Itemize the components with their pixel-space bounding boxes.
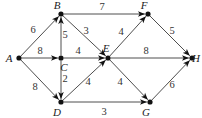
edge-weight-f-h: 5: [169, 25, 174, 36]
node-a: [16, 55, 21, 60]
edge-e-g: [110, 60, 148, 100]
node-label-d: D: [52, 106, 61, 118]
edge-weight-a-c: 8: [37, 45, 42, 56]
edge-weight-c-b: 5: [62, 29, 67, 40]
node-label-g: G: [142, 106, 150, 118]
node-label-b: B: [54, 0, 61, 11]
edge-a-d: [21, 60, 59, 100]
node-f: [145, 11, 150, 16]
node-label-f: F: [140, 0, 148, 11]
node-label-e: E: [102, 42, 110, 54]
edge-weight-a-b: 6: [30, 24, 35, 35]
edge-weight-c-e: 4: [75, 45, 81, 56]
edge-weight-b-f: 7: [99, 1, 104, 12]
node-label-c: C: [60, 61, 68, 73]
edge-weight-e-f: 4: [118, 26, 124, 37]
labels-layer: 688524374348456ABCDEFGH: [5, 0, 201, 118]
weighted-directed-graph: 688524374348456ABCDEFGH: [0, 0, 202, 118]
edge-weight-c-d: 2: [62, 73, 67, 84]
node-label-h: H: [191, 52, 201, 64]
node-c: [58, 55, 63, 60]
node-d: [58, 99, 63, 104]
edge-weight-e-h: 8: [143, 45, 148, 56]
edge-weight-a-d: 8: [32, 81, 37, 92]
edge-weight-d-e: 4: [85, 76, 91, 87]
edges-layer: [21, 14, 190, 102]
node-b: [58, 11, 63, 16]
edge-e-f: [110, 16, 146, 56]
edge-d-e: [63, 60, 106, 100]
edge-weight-d-g: 3: [101, 106, 106, 117]
edge-weight-g-h: 6: [169, 79, 174, 90]
node-g: [147, 99, 152, 104]
edge-weight-b-e: 3: [83, 25, 88, 36]
node-label-a: A: [5, 52, 13, 64]
node-e: [105, 55, 110, 60]
edge-weight-e-g: 4: [117, 76, 123, 87]
